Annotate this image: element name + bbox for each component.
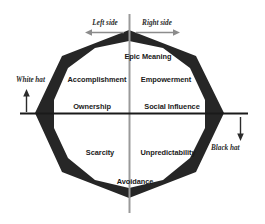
core-drive-unpredictability: Unpredictability [140, 149, 195, 156]
axis-label-white-hat: White hat [16, 77, 45, 84]
core-drive-epic-meaning: Epic Meaning [124, 53, 171, 60]
core-drive-scarcity: Scarcity [86, 149, 114, 156]
core-drive-accomplishment: Accomplishment [68, 76, 127, 83]
axis-label-black-hat: Black hat [211, 145, 240, 152]
core-drive-social-influence: Social Influence [144, 103, 199, 110]
octagon-graphic [0, 0, 265, 224]
arrow-down-icon [237, 117, 244, 141]
core-drive-avoidance: Avoidance [117, 178, 154, 185]
axis-label-right-side: Right side [142, 20, 172, 27]
octalysis-diagram: Left side Right side White hat Black hat… [0, 0, 265, 224]
core-drive-empowerment: Empowerment [141, 76, 191, 83]
arrow-right-icon [136, 29, 180, 35]
arrow-up-icon [23, 89, 30, 112]
core-drive-ownership: Ownership [73, 103, 111, 110]
axis-label-left-side: Left side [92, 20, 117, 27]
